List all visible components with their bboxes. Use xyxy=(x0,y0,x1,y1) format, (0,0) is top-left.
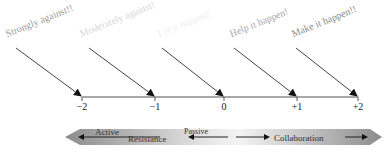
bar-label-collaboration: Collaboration xyxy=(274,133,324,143)
commitment-scale-diagram: Strongly against!! Moderately against! L… xyxy=(0,0,391,152)
bar-label-active: Active xyxy=(95,127,119,137)
bar-label-passive: Passive xyxy=(184,127,208,136)
tick-minus-1: −1 xyxy=(150,101,161,112)
tick-plus-2: +2 xyxy=(353,101,364,112)
tick-0: 0 xyxy=(222,101,227,112)
tick-plus-1: +1 xyxy=(292,101,303,112)
tick-minus-2: −2 xyxy=(77,101,88,112)
bar-label-resistance: Resistance xyxy=(128,134,167,144)
